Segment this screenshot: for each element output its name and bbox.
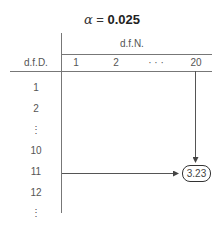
arrows [0, 0, 224, 238]
critical-value-oval: 3.23 [182, 165, 211, 182]
